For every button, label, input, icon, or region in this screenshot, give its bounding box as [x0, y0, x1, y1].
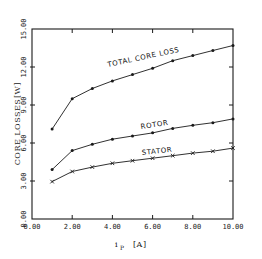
rotor-dot-marker-icon [71, 149, 74, 152]
rotor-dot-marker-icon [151, 131, 154, 134]
total-core-loss-dot-marker-icon [91, 87, 94, 90]
x-tick-label: 4.00 [104, 223, 121, 231]
total-core-loss-dot-marker-icon [131, 73, 134, 76]
rotor-dot-marker-icon [131, 135, 134, 138]
x-axis-label: i P [A] [115, 240, 147, 251]
rotor-dot-marker-icon [211, 121, 214, 124]
total-core-loss-dot-marker-icon [171, 59, 174, 62]
x-tick-label: 6.00 [144, 223, 161, 231]
total-core-loss-dot-marker-icon [191, 54, 194, 57]
total-core-loss-dot-marker-icon [111, 79, 114, 82]
total-core-loss-label: TOTAL CORE LOSS [106, 46, 180, 69]
stator-x-marker-icon [50, 180, 54, 184]
y-tick-label: 0.00 [20, 211, 28, 228]
total-core-loss-dot-marker-icon [51, 128, 54, 131]
data-series [50, 44, 235, 183]
total-core-loss-dot-marker-icon [151, 67, 154, 70]
stator-label: STATOR [141, 146, 172, 157]
x-tick-label: 8.00 [184, 223, 201, 231]
rotor-dot-marker-icon [111, 138, 114, 141]
rotor-dot-marker-icon [171, 127, 174, 130]
rotor-dot-marker-icon [91, 143, 94, 146]
y-axis-label-unit: [W] [13, 82, 22, 98]
rotor-dot-marker-icon [51, 168, 54, 171]
y-axis-label: CORE LOSSES [W] [13, 82, 22, 165]
core-losses-chart: 0.002.004.006.008.0010.00 0.003.006.009.… [0, 0, 262, 259]
rotor-dot-marker-icon [191, 124, 194, 127]
x-tick-label: 10.00 [222, 223, 243, 231]
y-tick-label: 12.00 [20, 56, 28, 77]
rotor-label: ROTOR [140, 119, 169, 131]
x-axis-label-unit: [A] [133, 240, 147, 249]
x-axis-label-var: i [115, 240, 118, 249]
y-tick-label: 3.00 [20, 173, 28, 190]
y-axis-label-text: CORE LOSSES [13, 99, 22, 166]
y-tick-label: 15.00 [20, 18, 28, 39]
x-tick-labels: 0.002.004.006.008.0010.00 [24, 223, 244, 231]
total-core-loss-dot-marker-icon [71, 97, 74, 100]
x-tick-label: 2.00 [64, 223, 81, 231]
total-core-loss-dot-marker-icon [232, 44, 235, 47]
rotor-dot-marker-icon [232, 117, 235, 120]
total-core-loss-dot-marker-icon [211, 49, 214, 52]
x-axis-label-sub: P [120, 244, 125, 251]
